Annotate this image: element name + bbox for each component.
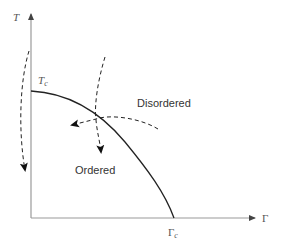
phase-boundary-curve	[31, 91, 174, 218]
critical-gamma-label: Γc	[168, 226, 178, 240]
tc-subscript: c	[44, 79, 48, 88]
critical-temperature-label: Tc	[38, 74, 48, 88]
dashed-arrow-decreasing-gamma	[72, 117, 158, 129]
gamma-c-subscript: c	[174, 231, 178, 240]
y-axis-label: T	[13, 11, 20, 23]
x-axis-label: Γ	[262, 212, 268, 224]
region-label-disordered: Disordered	[137, 97, 191, 109]
dashed-arrow-cooling-left	[21, 51, 29, 170]
dashed-arrow-cooling-middle	[95, 57, 105, 152]
region-label-ordered: Ordered	[75, 164, 115, 176]
phase-diagram: T Γ Tc Γc Disordered Ordered	[0, 0, 291, 247]
